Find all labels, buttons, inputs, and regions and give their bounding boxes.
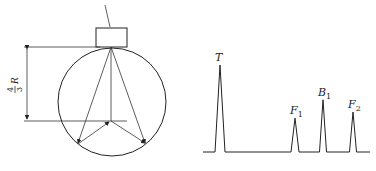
waveform-trace xyxy=(203,65,370,152)
sphere-figure: 4 3 R xyxy=(6,5,166,156)
fraction-numerator: 4 xyxy=(6,87,15,92)
peak-label-b1: B1 xyxy=(317,86,331,101)
echo-waveform xyxy=(203,65,370,152)
peak-label-t: T xyxy=(215,51,224,64)
peak-label-f1: F1 xyxy=(289,104,303,119)
peak-label-f2: F2 xyxy=(347,98,361,113)
sphere-circle xyxy=(58,48,166,156)
radius-variable: R xyxy=(10,77,20,85)
diagram-canvas: 4 3 R TF1B1F2 xyxy=(0,0,376,171)
probe-block xyxy=(96,28,127,47)
ray-right-return xyxy=(111,121,145,143)
ray-right xyxy=(111,47,145,143)
fraction-denominator: 3 xyxy=(15,87,24,92)
peak-labels: TF1B1F2 xyxy=(215,51,361,119)
probe-cable xyxy=(105,5,110,27)
ray-left xyxy=(78,47,111,143)
ray-left-return xyxy=(78,122,109,144)
dimension-label: 4 3 R xyxy=(6,77,24,93)
